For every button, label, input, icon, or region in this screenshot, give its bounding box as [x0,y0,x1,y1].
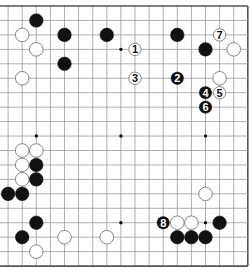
move-number: 3 [132,72,138,84]
numbered-stone-6[interactable]: 6 [199,101,211,113]
black-stone[interactable] [15,230,29,244]
star-point [119,48,122,51]
black-stone[interactable] [30,216,44,230]
move-number: 5 [217,87,223,99]
move-number: 4 [202,87,209,99]
black-stone[interactable] [1,187,15,201]
black-stone[interactable] [171,230,185,244]
black-stone[interactable] [171,28,185,42]
star-point [119,134,122,137]
move-number: 6 [202,101,208,113]
move-number: 8 [160,217,166,229]
black-stone[interactable] [30,14,44,28]
board-background [0,0,251,280]
numbered-stone-2[interactable]: 2 [171,72,183,84]
star-point [35,134,38,137]
black-stone[interactable] [30,158,44,172]
star-point [204,134,207,137]
white-stone[interactable] [227,43,241,57]
white-stone[interactable] [30,144,44,158]
white-stone[interactable] [15,144,29,158]
black-stone[interactable] [58,57,72,71]
numbered-stone-4[interactable]: 4 [199,87,211,99]
white-stone[interactable] [30,245,44,259]
numbered-stone-7[interactable]: 7 [213,29,225,41]
white-stone[interactable] [213,71,227,85]
white-stone[interactable] [15,28,29,42]
white-stone[interactable] [15,71,29,85]
white-stone[interactable] [15,158,29,172]
white-stone[interactable] [15,173,29,187]
white-stone[interactable] [171,216,185,230]
white-stone[interactable] [100,230,114,244]
white-stone[interactable] [30,43,44,57]
move-number: 7 [217,29,223,41]
white-stone[interactable] [185,216,199,230]
numbered-stone-8[interactable]: 8 [157,217,169,229]
go-board: 12345678 [0,0,251,280]
black-stone[interactable] [199,230,213,244]
black-stone[interactable] [15,187,29,201]
star-point [119,221,122,224]
move-number: 1 [132,43,138,55]
star-point [204,221,207,224]
white-stone[interactable] [58,230,72,244]
numbered-stone-1[interactable]: 1 [129,43,141,55]
black-stone[interactable] [185,230,199,244]
white-stone[interactable] [199,187,213,201]
black-stone[interactable] [30,173,44,187]
black-stone[interactable] [213,216,227,230]
numbered-stone-5[interactable]: 5 [213,87,225,99]
black-stone[interactable] [100,28,114,42]
black-stone[interactable] [199,43,213,57]
numbered-stone-3[interactable]: 3 [129,72,141,84]
black-stone[interactable] [58,28,72,42]
move-number: 2 [174,72,180,84]
